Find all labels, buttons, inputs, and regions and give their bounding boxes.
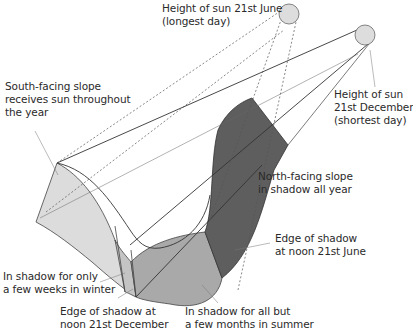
label-south-slope: South-facing slope receives sun througho… xyxy=(5,80,130,119)
label-sun-december: Height of sun 21st December (shortest da… xyxy=(334,88,413,127)
label-edge-june: Edge of shadow at noon 21st June xyxy=(275,232,366,258)
label-few-weeks: In shadow for only a few weeks in winter xyxy=(3,270,115,296)
label-edge-december: Edge of shadow at noon 21st December xyxy=(60,305,168,331)
label-all-but-summer: In shadow for all but a few months in su… xyxy=(185,305,314,331)
label-sun-june: Height of sun 21st June (longest day) xyxy=(162,2,282,28)
sun-december-icon xyxy=(355,25,375,45)
label-north-slope: North-facing slope in shadow all year xyxy=(258,170,353,196)
